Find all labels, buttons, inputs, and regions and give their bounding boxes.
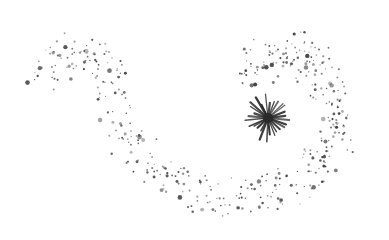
sparkle-dot	[332, 112, 335, 115]
sparkle-dot	[328, 140, 329, 141]
sparkle-dot	[247, 187, 249, 189]
sparkle-dot	[108, 135, 110, 137]
sparkle-dot	[209, 201, 211, 203]
sparkle-dot	[336, 77, 338, 79]
sparkle-dot	[153, 171, 155, 173]
sparkle-dot	[279, 178, 281, 180]
sparkle-dot	[180, 168, 181, 169]
sparkle-dot	[137, 135, 142, 140]
sparkle-dot	[268, 54, 270, 56]
sparkle-dot	[308, 170, 310, 172]
sparkle-dot	[204, 175, 206, 177]
sparkle-dot	[293, 32, 296, 35]
sparkle-dot	[66, 66, 68, 68]
sparkle-dot	[334, 168, 338, 172]
sparkle-dot	[309, 153, 311, 155]
sparkle-dot	[326, 88, 328, 90]
sparkle-dot	[130, 136, 131, 137]
sparkle-dot	[171, 174, 173, 176]
sparkle-dot	[268, 45, 270, 47]
sparkle-dot	[328, 47, 330, 49]
sparkle-dot	[315, 172, 317, 174]
sparkle-dot	[333, 90, 336, 93]
sparkle-dot	[87, 56, 89, 58]
sparkle-dot	[332, 124, 334, 126]
sparkle-dot	[245, 74, 247, 76]
sparkle-dot	[245, 198, 247, 200]
sparkle-dot	[137, 143, 139, 145]
sparkle-dot	[116, 68, 118, 70]
sparkle-dot	[316, 151, 318, 153]
sparkle-dot	[191, 205, 193, 207]
sparkle-dot	[210, 189, 212, 191]
sparkle-dot	[342, 125, 345, 128]
sparkle-dot	[321, 138, 323, 140]
sparkle-dot	[285, 47, 287, 49]
sparkle-dot	[275, 62, 277, 64]
sparkle-dot	[241, 197, 243, 199]
sparkle-dot	[303, 31, 305, 33]
sparkle-dot	[271, 53, 273, 55]
sparkle-dot	[123, 91, 126, 94]
sparkle-dot	[343, 132, 345, 134]
sparkle-dot	[275, 177, 278, 180]
sparkle-dot	[96, 75, 98, 77]
sparkle-dot	[272, 81, 275, 84]
sparkle-dot	[117, 76, 120, 79]
sparkle-dot	[151, 156, 152, 157]
sparkle-dot	[200, 183, 201, 184]
sparkle-dot	[313, 73, 316, 76]
sparkle-dot	[297, 57, 299, 59]
sparkle-dot	[220, 205, 222, 207]
sparkle-dot	[25, 80, 30, 85]
sparkle-dot	[260, 185, 262, 187]
sparkle-dot	[282, 65, 285, 68]
sparkle-dot	[323, 139, 327, 143]
sparkle-dot	[314, 84, 316, 86]
sparkle-dot	[160, 174, 162, 176]
sparkle-dot	[296, 192, 298, 194]
sparkle-dot	[315, 98, 316, 99]
sparkle-dot	[53, 71, 55, 73]
sparkle-dot	[267, 207, 268, 208]
sparkle-dot	[331, 118, 333, 120]
sparkle-dot	[122, 138, 123, 139]
sparkle-dot	[38, 60, 40, 62]
sparkle-dot	[156, 138, 158, 140]
dot-trail	[25, 31, 354, 217]
sparkle-dot	[136, 160, 139, 163]
sparkle-dot	[334, 131, 337, 134]
sparkle-dot	[227, 213, 229, 215]
sparkle-dot	[178, 183, 180, 185]
sparkle-dot	[291, 43, 293, 45]
sparkle-dot	[165, 191, 167, 193]
sparkle-dot	[130, 151, 133, 154]
sparkle-dot	[45, 49, 46, 50]
sparkle-dot	[260, 196, 262, 198]
sparkle-dot	[244, 73, 245, 74]
sparkle-dot	[105, 51, 107, 53]
sparkle-dot	[328, 155, 330, 157]
sparkle-dot	[74, 52, 76, 54]
sparkle-dot	[343, 86, 345, 88]
sparkle-dot	[111, 82, 113, 84]
sparkle-dot	[253, 188, 256, 191]
sparkle-dot	[120, 72, 121, 73]
sparkle-dot	[215, 210, 217, 212]
sparkle-dot	[331, 146, 333, 148]
sparkle-dot	[111, 121, 114, 124]
sparkle-dot	[250, 83, 254, 87]
sparkle-dot	[322, 55, 324, 57]
sparkle-dot	[305, 75, 307, 77]
sparkle-dot	[238, 207, 240, 209]
sparkle-dot	[114, 92, 117, 95]
sparkle-dot	[337, 90, 338, 91]
sparkle-dot	[141, 130, 143, 132]
sparkle-dot	[309, 185, 311, 187]
sparkle-dot	[97, 68, 99, 70]
sparkle-dot	[352, 151, 354, 153]
sparkle-dot	[287, 56, 288, 57]
sparkle-dot	[71, 48, 73, 50]
sparkle-dot	[296, 52, 298, 54]
sparkle-dot	[74, 41, 76, 43]
